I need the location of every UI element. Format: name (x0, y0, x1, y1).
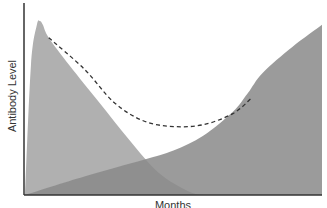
chart (0, 0, 327, 208)
x-axis-label: Months (123, 199, 223, 208)
y-axis-label: Antibody Level (6, 46, 18, 146)
